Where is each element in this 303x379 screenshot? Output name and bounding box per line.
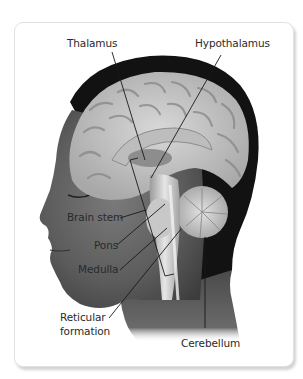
pons-structure	[146, 198, 174, 238]
label-thalamus: Thalamus	[67, 37, 117, 50]
thalamus-structure	[128, 149, 172, 167]
label-reticular-formation-line2: formation	[60, 325, 110, 338]
label-cerebellum: Cerebellum	[181, 337, 240, 350]
label-hypothalamus: Hypothalamus	[195, 37, 270, 50]
label-reticular-formation-line1: Reticular	[60, 311, 106, 324]
label-brain-stem: Brain stem	[67, 211, 123, 224]
head-brain-illustration	[0, 0, 303, 379]
label-pons: Pons	[94, 239, 118, 252]
label-medulla: Medulla	[78, 263, 118, 276]
